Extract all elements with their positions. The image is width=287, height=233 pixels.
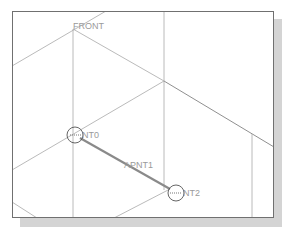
point-label: NT0: [82, 130, 99, 140]
grid-line: [164, 81, 274, 147]
point-label: APNT1: [124, 160, 153, 170]
point-label: NT2: [183, 188, 200, 198]
grid-line: [12, 81, 164, 170]
point-pnt1[interactable]: APNT1: [124, 160, 153, 170]
view-label-front: FRONT: [73, 21, 104, 31]
grid-line: [114, 189, 170, 218]
grid-line: [12, 11, 106, 66]
drawing-canvas[interactable]: NT0 APNT1 NT2 FRONT: [0, 0, 287, 233]
point-pnt2[interactable]: NT2: [168, 185, 200, 201]
grid-line: [73, 29, 164, 81]
grid-line: [12, 202, 37, 218]
